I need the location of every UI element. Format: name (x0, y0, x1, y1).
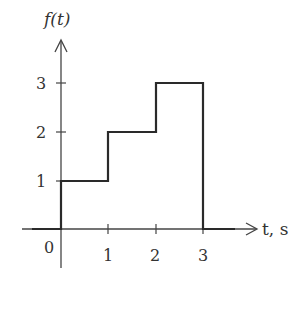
y-tick-label-1: 1 (36, 172, 46, 191)
x-tick-label-3: 3 (198, 246, 208, 265)
x-axis-label: t, s (262, 219, 288, 239)
origin-label: 0 (44, 238, 54, 257)
y-tick-label-2: 2 (36, 123, 46, 142)
y-tick-label-3: 3 (36, 74, 46, 93)
x-tick-label-1: 1 (103, 246, 113, 265)
step-function-chart: f(t) t, s 0 1 2 3 1 2 3 (0, 0, 302, 322)
step-function-line (32, 83, 235, 229)
x-tick-label-2: 2 (150, 246, 160, 265)
y-axis-label: f(t) (42, 9, 70, 29)
